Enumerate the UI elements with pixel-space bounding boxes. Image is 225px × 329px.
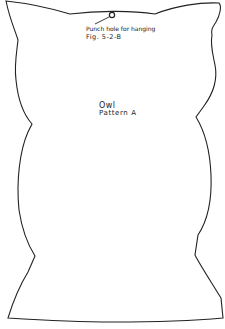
punch-hole-icon	[109, 12, 114, 17]
figure-ref: Fig. 5-2-B	[86, 33, 122, 41]
owl-outline-shape	[0, 0, 225, 329]
hole-note: Punch hole for hanging	[86, 25, 155, 32]
pointer-arrow	[95, 17, 109, 24]
outline-path	[6, 1, 223, 322]
pattern-subtitle: Pattern A	[99, 109, 137, 117]
owl-pattern-sheet: Punch hole for hanging Fig. 5-2-B Owl Pa…	[0, 0, 225, 329]
